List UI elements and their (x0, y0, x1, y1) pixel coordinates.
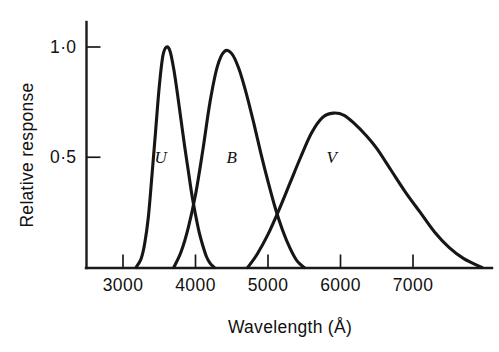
x-tick-label: 3000 (103, 275, 144, 295)
y-axis-ticks (87, 47, 101, 157)
x-tick-label: 6000 (320, 275, 361, 295)
y-tick-label: 1·0 (50, 37, 77, 57)
response-curve-v (248, 113, 482, 267)
curve-label-u: U (155, 148, 169, 167)
curve-label-v: V (327, 148, 340, 167)
response-curve-b (174, 50, 305, 267)
curve-labels-group: UBV (155, 148, 340, 167)
ubv-response-chart: 0·51·0 30004000500060007000 UBV Waveleng… (0, 0, 499, 352)
x-tick-label: 7000 (393, 275, 434, 295)
x-axis-ticks (123, 255, 413, 268)
y-axis-title: Relative response (17, 82, 37, 227)
y-tick-label: 0·5 (50, 147, 77, 167)
chart-canvas: 0·51·0 30004000500060007000 UBV Waveleng… (0, 0, 499, 352)
response-curves-group (136, 47, 482, 268)
y-axis-tick-labels: 0·51·0 (50, 37, 77, 167)
x-tick-label: 5000 (248, 275, 289, 295)
x-axis-tick-labels: 30004000500060007000 (103, 275, 434, 295)
curve-label-b: B (227, 148, 238, 167)
x-tick-label: 4000 (175, 275, 216, 295)
x-axis-title: Wavelength (Å) (228, 317, 352, 337)
